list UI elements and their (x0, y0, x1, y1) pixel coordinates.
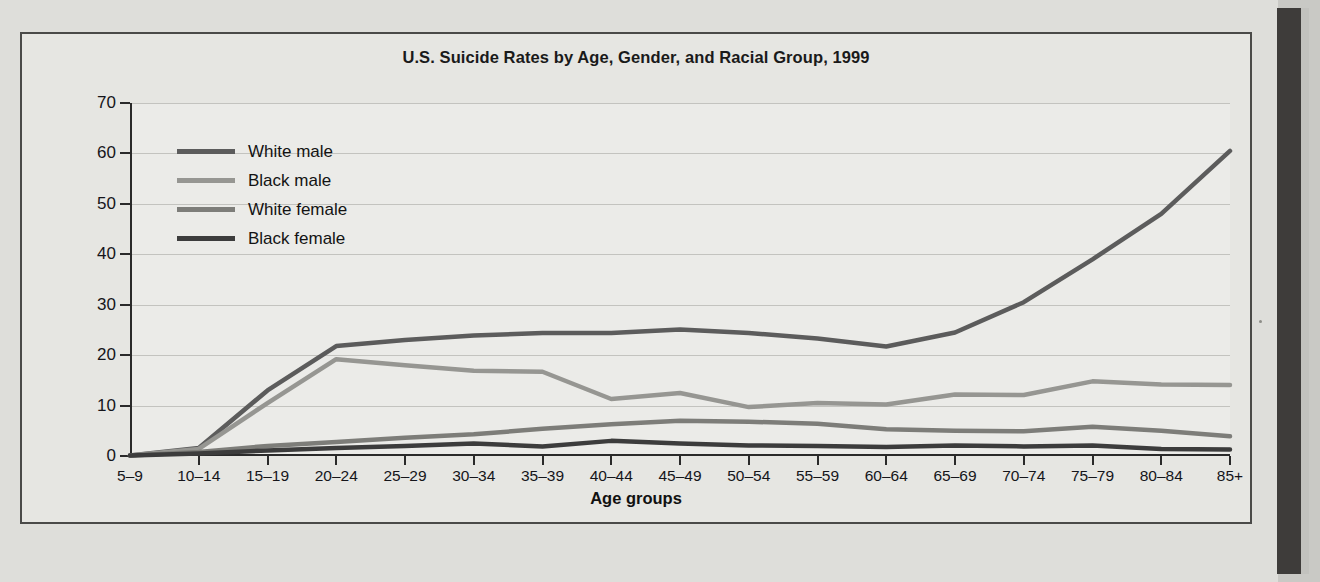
legend-item-black-male: Black male (177, 166, 347, 195)
x-axis-title: Age groups (22, 489, 1250, 508)
x-tick-label-5: 30–34 (452, 467, 495, 485)
legend-swatch-icon (177, 178, 235, 183)
x-tick-13 (1023, 456, 1025, 465)
y-tick-label-60: 60 (97, 143, 116, 163)
x-tick-15 (1160, 456, 1162, 465)
x-tick-2 (267, 456, 269, 465)
x-tick-label-6: 35–39 (521, 467, 564, 485)
y-tick-label-30: 30 (97, 295, 116, 315)
x-tick-label-7: 40–44 (590, 467, 633, 485)
x-tick-4 (404, 456, 406, 465)
x-tick-label-2: 15–19 (246, 467, 289, 485)
x-tick-3 (335, 456, 337, 465)
legend-swatch-icon (177, 149, 235, 154)
chart-title: U.S. Suicide Rates by Age, Gender, and R… (22, 48, 1250, 67)
x-tick-12 (954, 456, 956, 465)
y-tick-70 (120, 102, 130, 104)
y-tick-20 (120, 354, 130, 356)
legend-swatch-icon (177, 207, 235, 212)
legend-swatch-icon (177, 236, 235, 241)
x-tick-label-0: 5–9 (117, 467, 143, 485)
x-tick-label-15: 80–84 (1140, 467, 1183, 485)
x-tick-label-9: 50–54 (727, 467, 770, 485)
y-tick-30 (120, 304, 130, 306)
legend-label: White female (248, 200, 347, 220)
x-tick-label-8: 45–49 (658, 467, 701, 485)
x-tick-label-12: 65–69 (933, 467, 976, 485)
x-tick-1 (198, 456, 200, 465)
x-tick-label-16: 85+ (1217, 467, 1243, 485)
y-tick-50 (120, 203, 130, 205)
x-tick-10 (817, 456, 819, 465)
y-tick-40 (120, 253, 130, 255)
y-tick-label-10: 10 (97, 396, 116, 416)
x-tick-label-3: 20–24 (315, 467, 358, 485)
x-tick-6 (542, 456, 544, 465)
x-tick-7 (610, 456, 612, 465)
x-tick-label-1: 10–14 (177, 467, 220, 485)
legend-label: White male (248, 142, 333, 162)
chart-legend: White maleBlack maleWhite femaleBlack fe… (177, 137, 347, 253)
legend-label: Black male (248, 171, 331, 191)
x-tick-label-10: 55–59 (796, 467, 839, 485)
y-tick-label-0: 0 (107, 446, 116, 466)
x-tick-label-14: 75–79 (1071, 467, 1114, 485)
y-tick-label-40: 40 (97, 244, 116, 264)
x-tick-11 (885, 456, 887, 465)
chart-figure: U.S. Suicide Rates by Age, Gender, and R… (20, 32, 1252, 524)
x-tick-14 (1092, 456, 1094, 465)
x-tick-9 (748, 456, 750, 465)
book-gutter-shadow (1277, 8, 1301, 574)
legend-label: Black female (248, 229, 345, 249)
y-tick-10 (120, 405, 130, 407)
x-tick-16 (1229, 456, 1231, 465)
y-tick-label-20: 20 (97, 345, 116, 365)
x-tick-label-4: 25–29 (383, 467, 426, 485)
y-tick-60 (120, 152, 130, 154)
y-tick-label-50: 50 (97, 194, 116, 214)
screenshot-page: U.S. Suicide Rates by Age, Gender, and R… (0, 0, 1320, 582)
x-tick-8 (679, 456, 681, 465)
legend-item-white-male: White male (177, 137, 347, 166)
page-speck (1259, 320, 1262, 323)
legend-item-white-female: White female (177, 195, 347, 224)
y-tick-label-70: 70 (97, 93, 116, 113)
legend-item-black-female: Black female (177, 224, 347, 253)
book-edge (1301, 8, 1309, 574)
x-tick-label-13: 70–74 (1002, 467, 1045, 485)
x-tick-label-11: 60–64 (865, 467, 908, 485)
x-tick-5 (473, 456, 475, 465)
